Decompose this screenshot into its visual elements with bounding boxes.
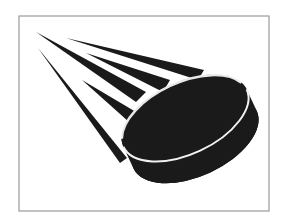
hockey-puck-illustration [0, 0, 287, 223]
